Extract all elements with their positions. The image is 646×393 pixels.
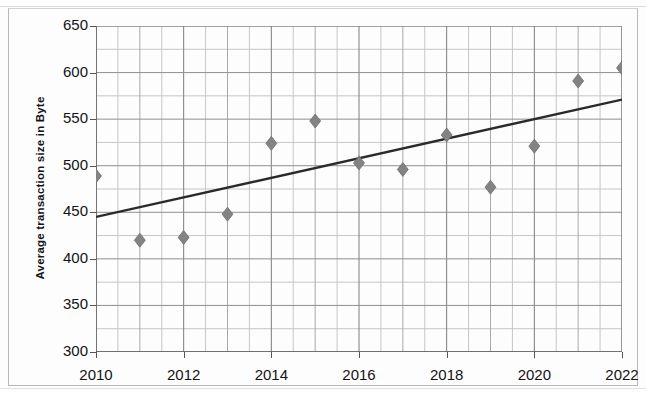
y-tick-label: 400 xyxy=(42,249,88,266)
y-tick-label: 300 xyxy=(42,342,88,359)
x-tick-label: 2016 xyxy=(329,366,389,383)
data-point xyxy=(485,180,496,194)
x-tick-label: 2014 xyxy=(241,366,301,383)
y-axis-title: Average transaction size in Byte xyxy=(34,38,46,338)
y-tick-label: 550 xyxy=(42,109,88,126)
data-point xyxy=(266,136,277,150)
y-tick-label: 350 xyxy=(42,295,88,312)
y-tick-label: 650 xyxy=(42,16,88,33)
data-point xyxy=(573,74,584,88)
x-tick-label: 2022 xyxy=(592,366,646,383)
scan-artifact-top-line xyxy=(0,6,646,7)
x-tick-label: 2018 xyxy=(417,366,477,383)
y-tick-label: 500 xyxy=(42,156,88,173)
x-tick-mark xyxy=(96,352,97,358)
data-point xyxy=(310,114,321,128)
y-tick-label: 450 xyxy=(42,202,88,219)
x-tick-mark xyxy=(359,352,360,358)
x-tick-label: 2010 xyxy=(66,366,126,383)
x-tick-mark xyxy=(271,352,272,358)
data-point xyxy=(96,169,101,183)
x-tick-mark xyxy=(534,352,535,358)
data-point xyxy=(529,139,540,153)
x-tick-label: 2020 xyxy=(504,366,564,383)
y-tick-label: 600 xyxy=(42,63,88,80)
x-tick-mark xyxy=(447,352,448,358)
scan-artifact-bottom-line xyxy=(0,388,646,389)
data-point xyxy=(178,230,189,244)
x-tick-mark xyxy=(184,352,185,358)
x-tick-label: 2012 xyxy=(154,366,214,383)
chart-figure: Average transaction size in Byte 3003504… xyxy=(0,0,646,393)
data-point xyxy=(397,162,408,176)
x-tick-mark xyxy=(622,352,623,358)
plot-area xyxy=(96,26,622,352)
scatter-plot-svg xyxy=(96,26,622,352)
data-point xyxy=(222,207,233,221)
